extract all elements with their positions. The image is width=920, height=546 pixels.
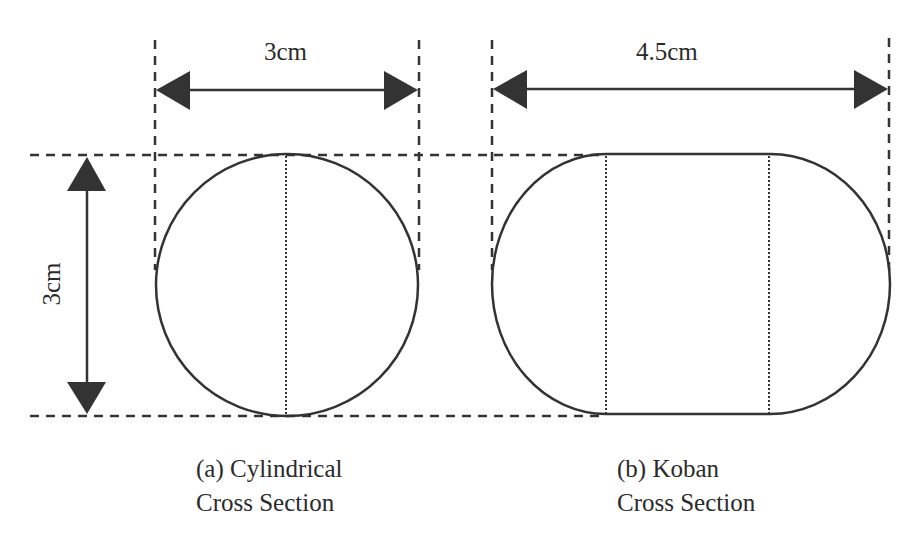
height-label: 3cm [38, 262, 66, 305]
koban-width-label: 4.5cm [636, 38, 698, 66]
cyl-caption-line1: (a) Cylindrical [196, 452, 342, 486]
dimension-guides [30, 38, 889, 416]
koban-width-arrow [493, 70, 888, 109]
cyl-caption-line2: Cross Section [196, 486, 342, 520]
koban-caption-line2: Cross Section [617, 486, 755, 520]
cylindrical-cross-section [156, 154, 418, 416]
koban-cross-section [492, 154, 890, 414]
cyl-width-arrow [156, 71, 418, 110]
koban-caption-line1: (b) Koban [617, 452, 755, 486]
koban-caption: (b) Koban Cross Section [617, 452, 755, 520]
cyl-caption: (a) Cylindrical Cross Section [196, 452, 342, 520]
cross-section-diagram [0, 0, 920, 546]
height-arrow [67, 157, 106, 414]
cyl-width-label: 3cm [264, 38, 307, 66]
